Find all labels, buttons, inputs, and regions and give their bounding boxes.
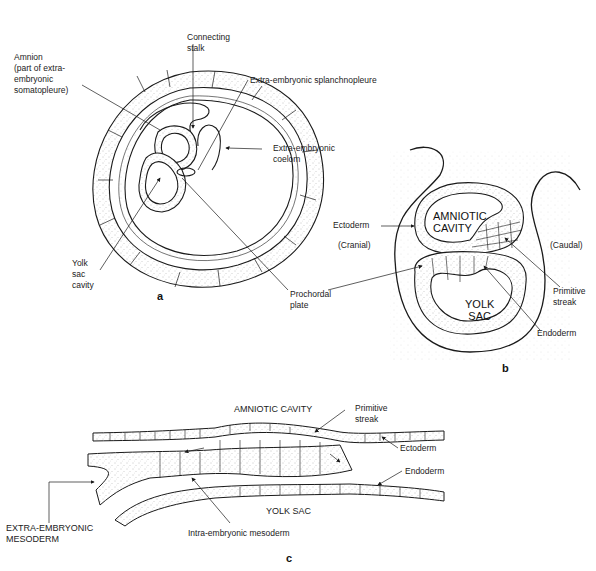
label-ectoderm-c: Ectoderm (400, 443, 436, 454)
label-amniotic-cavity-b: AMNIOTIC CAVITY (433, 210, 487, 234)
panel-a-diagram (93, 70, 324, 287)
label-yolk-sac-c: YOLK SAC (266, 506, 311, 517)
label-yolk-sac-b: YOLK SAC (465, 298, 494, 322)
label-extra-embryonic-coelom: Extra-embryonic coelom (273, 143, 335, 165)
panel-label-b: b (502, 362, 509, 374)
label-ectoderm-b: Ectoderm (333, 220, 369, 231)
label-primitive-streak-b: Primitive streak (553, 286, 586, 308)
label-yolk-sac-cavity: Yolk sac cavity (72, 258, 94, 291)
label-extra-embryonic-splanchnopleure: Extra-embryonic splanchnopleure (250, 75, 377, 86)
label-caudal: (Caudal) (550, 240, 583, 251)
label-prochordal-plate: Prochordal plate (290, 289, 331, 311)
label-amnion: Amnion (part of extra- embryonic somatop… (14, 52, 68, 96)
label-extra-embryonic-mesoderm: EXTRA-EMBRYONIC MESODERM (6, 523, 93, 545)
label-cranial: (Cranial) (338, 240, 371, 251)
label-intra-embryonic-mesoderm: Intra-embryonic mesoderm (188, 528, 290, 539)
label-connecting-stalk: Connecting stalk (187, 32, 230, 54)
label-primitive-streak-c: Primitive streak (355, 403, 388, 425)
label-endoderm-b: Endoderm (537, 328, 576, 339)
panel-label-c: c (286, 552, 292, 564)
label-endoderm-c: Endoderm (405, 466, 444, 477)
label-amniotic-cavity-c: AMNIOTIC CAVITY (234, 404, 312, 415)
panel-label-a: a (157, 290, 163, 302)
